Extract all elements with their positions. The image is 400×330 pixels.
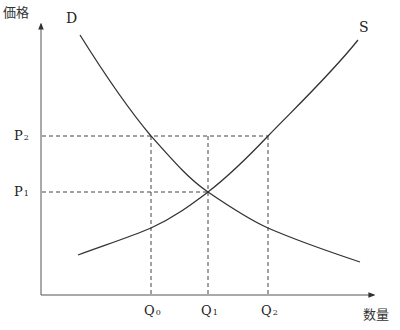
p2-subscript: 2	[24, 133, 29, 142]
q2-subscript: 2	[273, 308, 278, 317]
supply-curve	[78, 40, 358, 255]
supply-demand-chart	[0, 0, 400, 330]
supply-label: S	[359, 20, 369, 34]
q1-subscript: 1	[213, 308, 218, 317]
p1-label: P1	[14, 185, 29, 198]
q2-label: Q2	[261, 304, 278, 317]
y-axis-title: 価格	[3, 6, 29, 19]
p1-subscript: 1	[24, 189, 29, 198]
demand-curve	[80, 35, 360, 262]
demand-label: D	[66, 11, 77, 25]
x-axis-title: 数量	[363, 308, 389, 321]
p2-label: P2	[14, 129, 29, 142]
q2-letter: Q	[261, 303, 272, 318]
q0-subscript: 0	[156, 308, 161, 317]
p1-letter: P	[14, 184, 23, 199]
q1-label: Q1	[201, 304, 218, 317]
q1-letter: Q	[201, 303, 212, 318]
p2-letter: P	[14, 128, 23, 143]
q0-label: Q0	[144, 304, 161, 317]
q0-letter: Q	[144, 303, 155, 318]
